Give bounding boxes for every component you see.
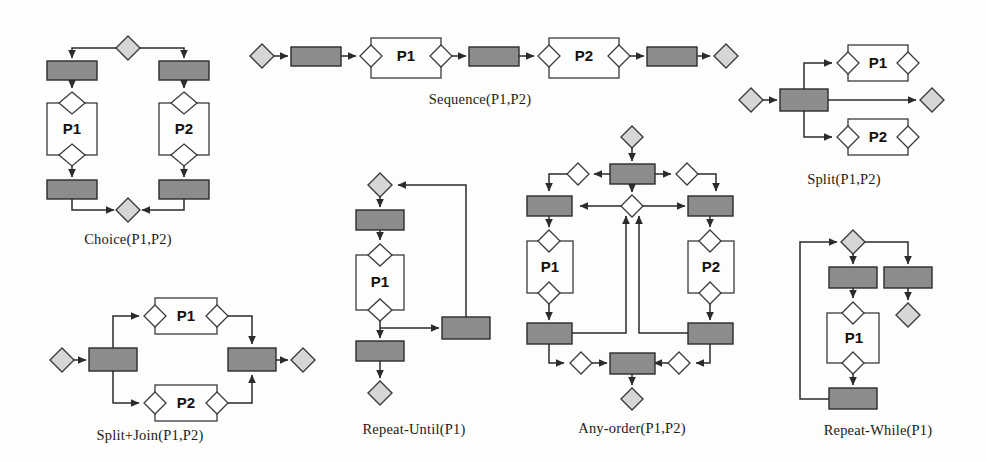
subprocess-label: P2 xyxy=(575,47,593,64)
gateway-icon xyxy=(676,163,698,185)
diagram-caption: Repeat-While(P1) xyxy=(824,422,933,439)
task-node xyxy=(688,323,733,344)
gateway-icon xyxy=(538,230,560,252)
subprocess-label: P1 xyxy=(397,47,415,64)
gateway-icon xyxy=(144,392,166,414)
task-node xyxy=(356,341,404,361)
task-node xyxy=(469,47,519,66)
start-terminal-icon xyxy=(621,126,643,148)
diagram-caption: Choice(P1,P2) xyxy=(84,231,172,248)
gateway-icon xyxy=(368,299,392,321)
task-node xyxy=(47,180,97,199)
gateway-icon xyxy=(699,282,721,304)
subprocess-label: P2 xyxy=(869,128,887,145)
diagram-caption: Repeat-Until(P1) xyxy=(362,421,465,438)
subprocess-label: P2 xyxy=(175,120,193,137)
start-terminal-icon xyxy=(116,36,140,60)
gateway-icon xyxy=(171,144,197,166)
gateway-icon xyxy=(59,92,85,114)
gateway-icon xyxy=(842,302,864,324)
diagram-split-join: P1 P2 Split+Join(P1,P2) xyxy=(50,298,315,444)
gateway-icon xyxy=(538,45,560,67)
subprocess-label: P1 xyxy=(63,120,81,137)
task-node xyxy=(159,180,209,199)
gateway-icon xyxy=(368,244,392,266)
task-node xyxy=(47,61,97,80)
task-node xyxy=(688,196,733,216)
task-node xyxy=(291,47,341,66)
diagram-choice: P1 P2 Choice(P1,P2) xyxy=(47,36,209,248)
figure-canvas: P1 P2 Choice(P1,P2) P1 P2 xyxy=(0,0,986,462)
task-node xyxy=(527,323,572,344)
task-node xyxy=(829,388,877,409)
loop-gateway-icon xyxy=(841,230,865,254)
gateway-icon xyxy=(171,92,197,114)
gateway-icon xyxy=(206,305,228,327)
gateway-icon xyxy=(608,45,630,67)
start-terminal-icon xyxy=(368,173,392,197)
end-terminal-icon xyxy=(291,348,315,372)
subprocess-label: P2 xyxy=(702,258,720,275)
end-terminal-icon xyxy=(621,388,643,410)
gateway-icon xyxy=(897,126,919,148)
gateway-icon xyxy=(897,52,919,74)
gateway-icon xyxy=(538,282,560,304)
diagram-any-order: P1 P2 Any-order(P1,P2) xyxy=(527,126,734,437)
task-node xyxy=(610,353,655,374)
gateway-icon xyxy=(206,392,228,414)
gateway-icon xyxy=(668,352,690,374)
diagram-sequence: P1 P2 Sequence(P1,P2) xyxy=(250,38,738,108)
subprocess-label: P1 xyxy=(177,307,195,324)
subprocess-label: P1 xyxy=(869,54,887,71)
task-node xyxy=(442,317,490,339)
diagram-caption: Any-order(P1,P2) xyxy=(578,420,686,437)
task-node xyxy=(356,210,404,230)
diagram-caption: Split+Join(P1,P2) xyxy=(96,427,203,444)
diagram-caption: Split(P1,P2) xyxy=(807,171,881,188)
task-node xyxy=(647,47,697,66)
gateway-icon xyxy=(621,195,643,217)
task-node xyxy=(228,348,276,371)
diagram-repeat-while: P1 Repeat-While(P1) xyxy=(800,230,932,439)
gateway-icon xyxy=(842,352,864,374)
subprocess-label: P2 xyxy=(177,394,195,411)
gateway-icon xyxy=(430,45,452,67)
task-node xyxy=(780,89,828,111)
start-terminal-icon xyxy=(250,44,274,68)
gateway-icon xyxy=(59,144,85,166)
task-node xyxy=(884,267,932,288)
task-node xyxy=(610,164,655,184)
diagram-repeat-until: P1 Repeat-Until(P1) xyxy=(356,173,490,438)
start-terminal-icon xyxy=(739,88,763,112)
gateway-icon xyxy=(567,163,589,185)
end-terminal-icon xyxy=(896,303,920,327)
task-node xyxy=(829,267,877,288)
gateway-icon xyxy=(144,305,166,327)
gateway-icon xyxy=(699,230,721,252)
diagram-split: P1 P2 Split(P1,P2) xyxy=(739,45,944,188)
subprocess-label: P1 xyxy=(371,273,389,290)
end-terminal-icon xyxy=(116,198,140,222)
gateway-icon xyxy=(837,126,859,148)
end-terminal-icon xyxy=(714,44,738,68)
end-terminal-icon xyxy=(920,88,944,112)
task-node xyxy=(159,61,209,80)
subprocess-label: P1 xyxy=(845,329,863,346)
start-terminal-icon xyxy=(50,348,74,372)
task-node xyxy=(527,196,572,216)
gateway-icon xyxy=(837,52,859,74)
task-node xyxy=(89,348,137,371)
end-terminal-icon xyxy=(368,381,392,405)
diagram-caption: Sequence(P1,P2) xyxy=(429,91,531,108)
gateway-icon xyxy=(570,352,592,374)
subprocess-label: P1 xyxy=(541,258,559,275)
gateway-icon xyxy=(360,45,382,67)
